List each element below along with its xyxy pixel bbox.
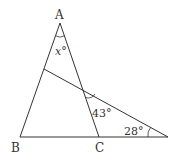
label-a: A bbox=[54, 8, 64, 22]
label-b: B bbox=[11, 141, 20, 155]
segment-ab bbox=[20, 23, 60, 137]
diagram-svg: A B C x° 43° 28° bbox=[0, 0, 176, 161]
label-c: C bbox=[95, 141, 104, 155]
angle-arc-d bbox=[148, 128, 151, 137]
angle-arc-a bbox=[56, 36, 65, 37]
angle-label-28: 28° bbox=[124, 125, 144, 138]
angle-label-43: 43° bbox=[92, 107, 112, 120]
angle-label-x: x° bbox=[55, 45, 67, 58]
transversal bbox=[44, 69, 168, 137]
geometry-diagram: A B C x° 43° 28° bbox=[0, 0, 176, 161]
